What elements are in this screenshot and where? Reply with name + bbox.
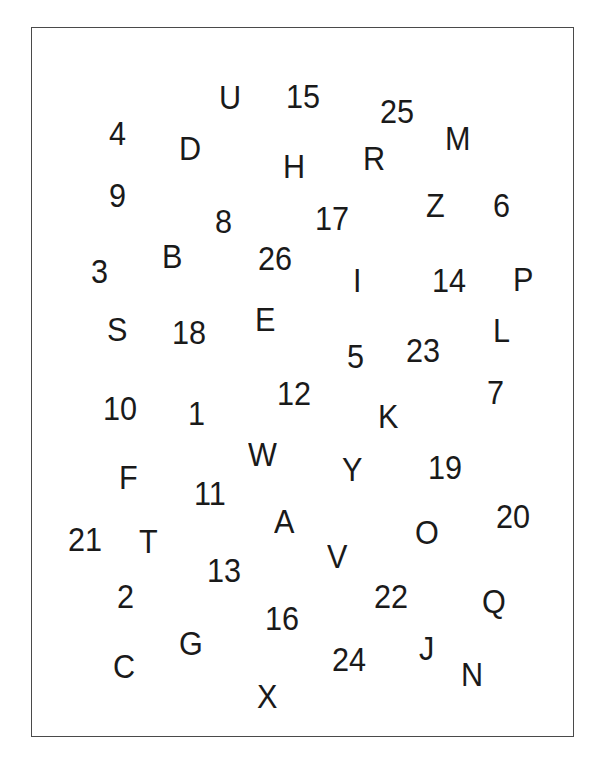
letter-k[interactable]: K — [378, 399, 398, 433]
number-13[interactable]: 13 — [207, 553, 241, 587]
letter-h[interactable]: H — [283, 149, 305, 183]
letter-j[interactable]: J — [419, 631, 434, 665]
number-23[interactable]: 23 — [406, 333, 440, 367]
letter-t[interactable]: T — [139, 524, 158, 558]
number-22[interactable]: 22 — [374, 579, 408, 613]
letter-l[interactable]: L — [493, 313, 510, 347]
letter-e[interactable]: E — [255, 302, 275, 336]
letter-n[interactable]: N — [461, 657, 483, 691]
letter-f[interactable]: F — [119, 460, 138, 494]
number-17[interactable]: 17 — [315, 201, 349, 235]
number-7[interactable]: 7 — [487, 375, 504, 409]
number-18[interactable]: 18 — [172, 315, 206, 349]
number-20[interactable]: 20 — [496, 499, 530, 533]
letter-a[interactable]: A — [274, 504, 294, 538]
letter-z[interactable]: Z — [426, 188, 445, 222]
letter-i[interactable]: I — [353, 263, 362, 297]
letter-m[interactable]: M — [445, 121, 470, 155]
letter-g[interactable]: G — [179, 626, 203, 660]
number-1[interactable]: 1 — [188, 396, 205, 430]
number-14[interactable]: 14 — [432, 263, 466, 297]
letter-v[interactable]: V — [327, 539, 347, 573]
number-19[interactable]: 19 — [428, 450, 462, 484]
number-16[interactable]: 16 — [265, 601, 299, 635]
letter-s[interactable]: S — [107, 312, 127, 346]
letter-r[interactable]: R — [363, 141, 385, 175]
number-5[interactable]: 5 — [347, 339, 364, 373]
number-10[interactable]: 10 — [103, 391, 137, 425]
number-21[interactable]: 21 — [68, 522, 102, 556]
number-4[interactable]: 4 — [109, 116, 126, 150]
number-26[interactable]: 26 — [258, 241, 292, 275]
number-3[interactable]: 3 — [91, 254, 108, 288]
letter-c[interactable]: C — [113, 649, 135, 683]
letter-p[interactable]: P — [513, 262, 533, 296]
letter-x[interactable]: X — [257, 679, 277, 713]
letter-o[interactable]: O — [415, 515, 439, 549]
letter-w[interactable]: W — [248, 437, 277, 471]
letter-b[interactable]: B — [162, 239, 182, 273]
letter-y[interactable]: Y — [342, 452, 362, 486]
number-8[interactable]: 8 — [215, 204, 232, 238]
letter-d[interactable]: D — [179, 131, 201, 165]
number-9[interactable]: 9 — [109, 178, 126, 212]
number-6[interactable]: 6 — [493, 188, 510, 222]
letter-q[interactable]: Q — [482, 584, 506, 618]
number-24[interactable]: 24 — [332, 642, 366, 676]
number-15[interactable]: 15 — [286, 79, 320, 113]
number-25[interactable]: 25 — [380, 94, 414, 128]
letter-u[interactable]: U — [219, 80, 241, 114]
number-12[interactable]: 12 — [277, 376, 311, 410]
number-11[interactable]: 11 — [194, 476, 226, 510]
number-2[interactable]: 2 — [117, 579, 134, 613]
